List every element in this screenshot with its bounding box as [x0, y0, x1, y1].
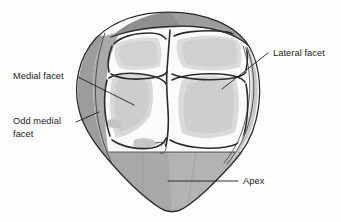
label-medial-facet: Medial facet	[13, 71, 64, 81]
apex-region	[100, 152, 240, 212]
superomedial-shade-core	[119, 41, 157, 67]
superolateral-shade-core	[182, 38, 237, 67]
label-odd-medial-facet-line2: facet	[13, 129, 34, 139]
patella-diagram: Lateral facet Medial facet Odd medial fa…	[0, 0, 341, 222]
patella-illustration: Lateral facet Medial facet Odd medial fa…	[0, 0, 341, 222]
label-lateral-facet: Lateral facet	[273, 48, 325, 58]
label-apex: Apex	[243, 176, 265, 186]
label-odd-medial-facet-line1: Odd medial	[13, 116, 61, 126]
inferolateral-shade-core	[184, 80, 235, 133]
